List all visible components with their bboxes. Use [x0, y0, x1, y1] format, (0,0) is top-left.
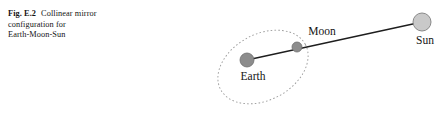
earth-label: Earth [241, 70, 266, 82]
sun-body [413, 13, 431, 31]
moon-orbit-ellipse [205, 15, 321, 118]
moon-body [292, 42, 302, 52]
sun-label: Sun [416, 34, 434, 46]
earth-moon-sun-diagram: Earth Moon Sun [0, 0, 444, 118]
earth-body [240, 53, 254, 67]
figure-container: Fig. E.2Collinear mirror configuration f… [0, 0, 444, 118]
moon-label: Moon [308, 25, 336, 37]
